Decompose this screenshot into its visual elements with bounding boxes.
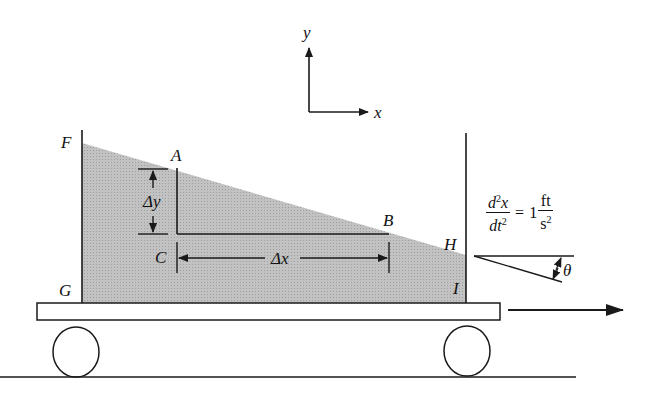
eq-x: x	[501, 194, 508, 211]
unit-fraction: ft s2	[538, 192, 553, 233]
point-label-h: H	[444, 236, 456, 253]
eq-dt: dt	[489, 217, 501, 234]
point-label-c: C	[155, 249, 166, 266]
diagram-canvas: y x F A B C G H I Δy Δx d2x dt2 =1 ft s2…	[0, 0, 656, 395]
theta-label: θ	[563, 262, 571, 279]
eq-d: d	[488, 194, 496, 211]
eq-equals: =	[515, 204, 524, 222]
cart-platform	[37, 303, 500, 320]
x-axis-label: x	[374, 104, 382, 121]
eq-den-exponent: 2	[502, 216, 507, 227]
delta-x-label: Δx	[271, 250, 289, 267]
y-axis-label: y	[303, 24, 311, 41]
coordinate-axes	[309, 48, 368, 112]
eq-value: 1	[529, 204, 537, 222]
unit-ft: ft	[538, 192, 553, 211]
point-label-g: G	[59, 282, 71, 299]
point-label-i: I	[453, 280, 459, 297]
point-label-b: B	[383, 212, 393, 229]
left-wheel	[53, 327, 99, 377]
delta-y-label: Δy	[143, 193, 161, 210]
liquid-region	[82, 143, 466, 303]
second-derivative-fraction: d2x dt2	[486, 190, 510, 235]
acceleration-equation: d2x dt2 =1 ft s2	[486, 190, 553, 235]
point-label-a: A	[171, 147, 181, 164]
diagram-svg	[0, 0, 656, 395]
angle-indicator	[474, 256, 574, 282]
right-wheel	[444, 326, 490, 376]
unit-exponent: 2	[546, 214, 551, 225]
point-label-f: F	[61, 134, 71, 151]
